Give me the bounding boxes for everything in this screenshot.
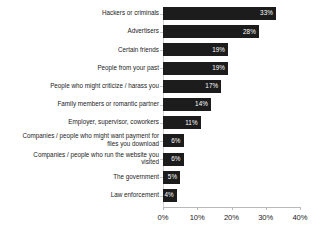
category-label: People who might criticize / harass you <box>4 82 162 89</box>
y-axis-tick <box>160 50 163 51</box>
y-axis-tick <box>160 159 163 160</box>
x-axis-tick <box>232 207 233 210</box>
category-label: Companies / people who might want paymen… <box>4 132 162 147</box>
bar: 6% <box>163 153 184 166</box>
bar-value-label: 28% <box>243 28 256 36</box>
bar: 17% <box>163 80 221 93</box>
plot-area: Hackers or criminals33%Advertisers28%Cer… <box>0 0 325 240</box>
y-axis-tick <box>160 86 163 87</box>
x-axis-tick <box>300 207 301 210</box>
bar-value-label: 19% <box>212 46 225 54</box>
bar: 6% <box>163 134 184 147</box>
category-label: People from your past <box>4 64 162 71</box>
y-axis-tick <box>160 105 163 106</box>
x-axis-tick-label: 0% <box>158 213 169 222</box>
y-axis-tick <box>160 123 163 124</box>
bar-value-label: 5% <box>168 173 177 181</box>
y-axis-tick <box>160 68 163 69</box>
category-label: Certain friends <box>4 46 162 53</box>
category-label: Employer, supervisor, coworkers <box>4 118 162 125</box>
y-axis-tick <box>160 196 163 197</box>
x-axis-tick-label: 20% <box>224 213 239 222</box>
category-label: The government <box>4 173 162 180</box>
bar: 28% <box>163 25 259 38</box>
x-axis-tick <box>266 207 267 210</box>
y-axis-tick <box>160 14 163 15</box>
y-axis-tick <box>160 141 163 142</box>
category-label: Family members or romantic partner <box>4 100 162 107</box>
bar: 4% <box>163 189 177 202</box>
bar-value-label: 17% <box>205 82 218 90</box>
x-axis-tick <box>197 207 198 210</box>
bar-value-label: 14% <box>195 100 208 108</box>
bar: 11% <box>163 116 201 129</box>
bar-value-label: 4% <box>164 191 173 199</box>
x-axis-tick-label: 10% <box>190 213 205 222</box>
bar: 19% <box>163 43 228 56</box>
bar-value-label: 6% <box>171 155 180 163</box>
bar: 33% <box>163 7 276 20</box>
x-axis-tick <box>163 207 164 210</box>
bar: 5% <box>163 171 180 184</box>
bar: 19% <box>163 62 228 75</box>
bar-value-label: 33% <box>260 9 273 17</box>
category-label: Law enforcement <box>4 191 162 198</box>
y-axis-tick <box>160 32 163 33</box>
bar-chart: Hackers or criminals33%Advertisers28%Cer… <box>0 0 325 240</box>
bar-value-label: 19% <box>212 64 225 72</box>
bar: 14% <box>163 98 211 111</box>
bar-value-label: 11% <box>185 119 197 127</box>
category-label: Hackers or criminals <box>4 9 162 16</box>
category-label: Advertisers <box>4 27 162 34</box>
x-axis-tick-label: 40% <box>292 213 307 222</box>
bar-value-label: 6% <box>171 137 180 145</box>
x-axis-tick-label: 30% <box>258 213 273 222</box>
y-axis-tick <box>160 177 163 178</box>
category-label: Companies / people who run the website y… <box>4 151 162 166</box>
